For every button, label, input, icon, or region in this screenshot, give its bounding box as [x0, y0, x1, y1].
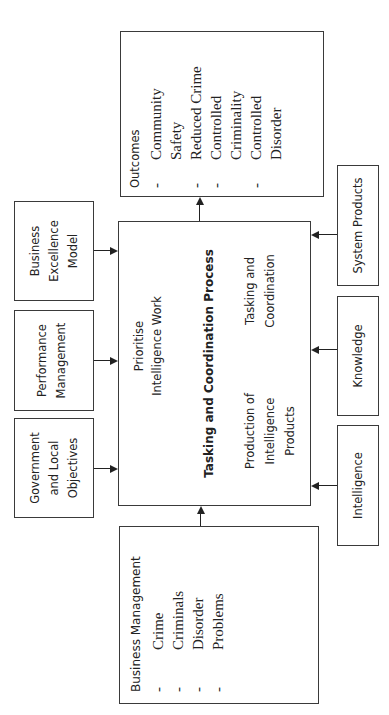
business-management-content: Business Management -Crime -Criminals -D…: [124, 525, 304, 700]
prioritise-intelligence-work: Prioritise Intelligence Work: [132, 266, 164, 426]
business-item: -Problems: [208, 525, 228, 692]
arrow-intelligence-line: [318, 485, 337, 486]
outcome-item: -Controlled: [246, 34, 266, 188]
arrow-gov-line: [94, 468, 111, 469]
arrow-from-business-management-line: [200, 513, 201, 526]
arrow-pm-head: [110, 357, 118, 365]
tasking-and-coordination: Tasking and Coordination: [240, 241, 280, 341]
arrow-to-outcomes-line: [199, 204, 200, 221]
arrow-to-outcomes-head: [196, 197, 204, 205]
production-of-intelligence-products: Production of Intelligence Products: [240, 386, 300, 476]
dash: -: [146, 160, 166, 188]
business-item: -Crime: [148, 525, 168, 692]
outcomes-content: Outcomes -Community Safety -Reduced Crim…: [124, 34, 324, 192]
arrow-from-business-management-head: [197, 506, 205, 514]
arrow-pm-line: [94, 360, 111, 361]
arrow-bem-head: [110, 247, 118, 255]
government-local-objectives-label: Government and Local Objectives: [14, 418, 94, 518]
outcome-item: -Controlled: [206, 34, 226, 188]
arrow-system-products-line: [318, 234, 337, 235]
business-excellence-model-label: Business Excellence Model: [14, 201, 94, 301]
arrow-bem-line: [94, 250, 111, 251]
intelligence-label: Intelligence: [337, 425, 379, 546]
arrow-knowledge-line: [318, 349, 337, 350]
system-products-label: System Products: [337, 165, 379, 286]
central-process-content: Prioritise Intelligence Work Tasking and…: [118, 221, 311, 506]
central-process-title: Tasking and Coordination Process: [202, 241, 216, 486]
performance-management-label: Performance Management: [14, 310, 94, 411]
outcome-item: -Reduced Crime: [186, 34, 206, 188]
arrow-intelligence-head: [311, 482, 319, 490]
outcomes-title: Outcomes: [124, 34, 146, 188]
knowledge-label: Knowledge: [337, 296, 379, 416]
arrow-gov-head: [110, 465, 118, 473]
arrow-knowledge-head: [311, 346, 319, 354]
arrow-system-products-head: [311, 231, 319, 239]
business-management-title: Business Management: [124, 525, 148, 692]
business-item: -Disorder: [188, 525, 208, 692]
outcome-item: -Community: [146, 34, 166, 188]
business-item: -Criminals: [168, 525, 188, 692]
